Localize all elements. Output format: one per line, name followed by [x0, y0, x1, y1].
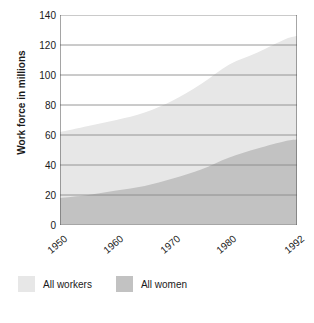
legend-label: All workers — [43, 279, 92, 290]
chart-legend: All workers All women — [18, 276, 211, 292]
y-axis-tick-labels: 140 120 100 80 60 40 20 0 — [20, 0, 56, 323]
x-tick-label: 1992 — [282, 233, 306, 256]
y-tick-label: 40 — [24, 160, 56, 171]
legend-item-all-women: All women — [116, 276, 187, 292]
legend-item-all-workers: All workers — [18, 276, 92, 292]
legend-label: All women — [141, 279, 187, 290]
y-tick-label: 100 — [24, 70, 56, 81]
y-tick-label: 0 — [24, 220, 56, 231]
y-tick-label: 60 — [24, 130, 56, 141]
area-chart: Work force in millions 140 120 100 80 60… — [0, 0, 314, 323]
legend-swatch-icon — [116, 276, 133, 292]
y-tick-label: 120 — [24, 40, 56, 51]
plot-svg — [60, 15, 297, 225]
y-tick-label: 20 — [24, 190, 56, 201]
x-tick-label: 1960 — [102, 233, 126, 256]
x-tick-label: 1980 — [214, 233, 238, 256]
y-tick-label: 80 — [24, 100, 56, 111]
plot-area — [60, 15, 297, 225]
x-tick-label: 1970 — [158, 233, 182, 256]
y-tick-label: 140 — [24, 10, 56, 21]
legend-swatch-icon — [18, 276, 35, 292]
